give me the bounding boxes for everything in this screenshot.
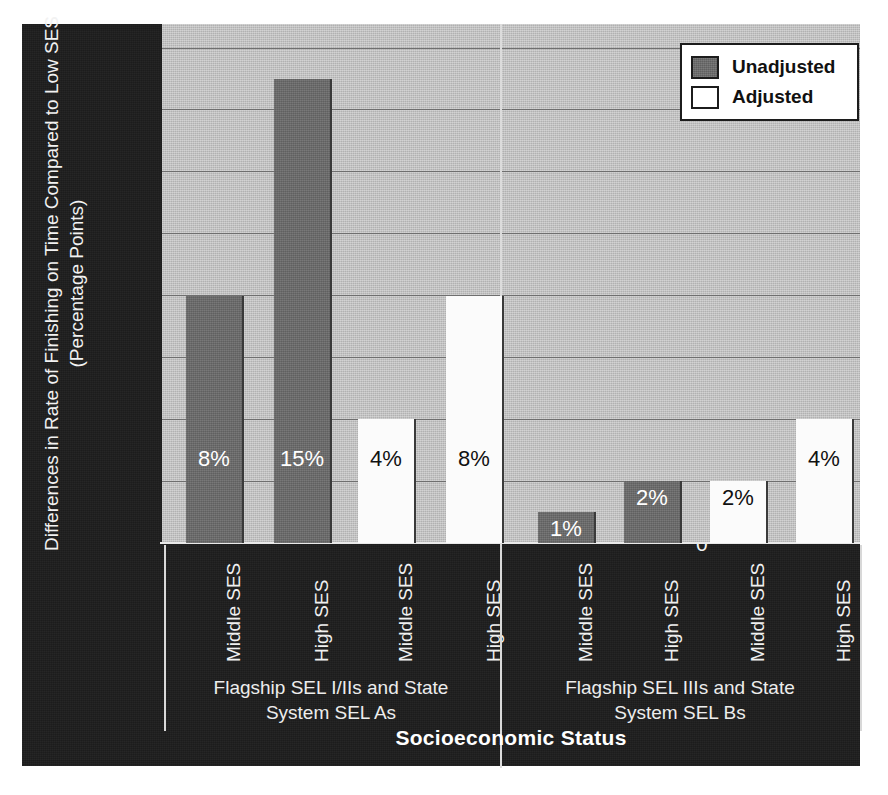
x-axis-category-label: Middle SES bbox=[396, 563, 415, 662]
bar: 2% bbox=[624, 481, 682, 543]
y-axis-title-line-2: (Percentage Points) bbox=[64, 200, 89, 368]
legend-label-unadjusted: Unadjusted bbox=[732, 56, 835, 78]
legend-swatch-unadjusted-icon bbox=[691, 56, 719, 79]
group-separator bbox=[860, 545, 862, 731]
y-axis-title-line-1: Differences in Rate of Finishing on Time… bbox=[39, 16, 64, 551]
group-separator bbox=[500, 545, 502, 731]
x-axis-category-label: Middle SES bbox=[748, 563, 767, 662]
gridline bbox=[162, 357, 860, 358]
x-axis-group-label: Flagship SEL IIIs and State System SEL B… bbox=[506, 675, 854, 725]
chart-figure: Differences in Rate of Finishing on Time… bbox=[0, 0, 888, 795]
x-axis-category-label: High SES bbox=[312, 580, 331, 662]
x-axis-category-label: Middle SES bbox=[576, 563, 595, 662]
x-axis-title: Socioeconomic Status bbox=[162, 726, 860, 750]
bar-value-label: 15% bbox=[274, 448, 330, 470]
bar: 4% bbox=[796, 419, 854, 543]
bar-value-label: 1% bbox=[538, 518, 594, 540]
bar-value-label: 4% bbox=[796, 448, 852, 470]
bar: 1% bbox=[538, 512, 596, 543]
bar: 8% bbox=[186, 296, 244, 544]
chart-panel: Differences in Rate of Finishing on Time… bbox=[22, 24, 860, 766]
bar: 8% bbox=[446, 296, 504, 544]
gridline bbox=[162, 295, 860, 296]
bar-value-label: 4% bbox=[358, 448, 414, 470]
gridline bbox=[162, 419, 860, 420]
bar-value-label: 8% bbox=[446, 448, 502, 470]
bar-value-label: 8% bbox=[186, 448, 242, 470]
x-axis-category-label: High SES bbox=[834, 580, 853, 662]
legend-swatch-adjusted-icon bbox=[691, 86, 719, 109]
bar-value-label: 2% bbox=[710, 487, 766, 509]
y-axis-title: Differences in Rate of Finishing on Time… bbox=[22, 24, 106, 543]
x-axis-category-label: High SES bbox=[662, 580, 681, 662]
bar: 2% bbox=[710, 481, 768, 543]
bar-value-label: 2% bbox=[624, 487, 680, 509]
bar: 4% bbox=[358, 419, 416, 543]
legend-item-unadjusted: Unadjusted bbox=[691, 52, 848, 82]
legend-item-adjusted: Adjusted bbox=[691, 82, 848, 112]
chart-legend: Unadjusted Adjusted bbox=[680, 43, 859, 121]
legend-label-adjusted: Adjusted bbox=[732, 86, 813, 108]
gridline bbox=[162, 233, 860, 234]
bar: 15% bbox=[274, 79, 332, 543]
group-separator bbox=[164, 545, 166, 731]
x-axis-category-label: Middle SES bbox=[224, 563, 243, 662]
x-axis-group-label: Flagship SEL I/IIs and State System SEL … bbox=[168, 675, 494, 725]
gridline bbox=[162, 171, 860, 172]
